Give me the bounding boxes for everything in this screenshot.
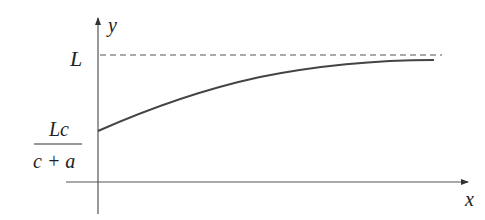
intercept-numerator: Lc (48, 118, 69, 140)
intercept-denominator: c + a (33, 150, 75, 172)
x-axis-label: x (464, 188, 474, 210)
logistic-curve (98, 60, 434, 131)
y-axis-label: y (106, 14, 117, 37)
logistic-chart: y x L Lc c + a (0, 0, 485, 220)
asymptote-label: L (69, 46, 82, 71)
